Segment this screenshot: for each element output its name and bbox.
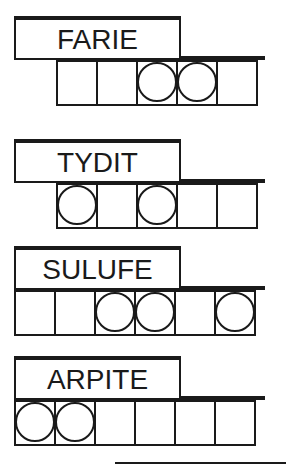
tile-input[interactable] [178,62,216,104]
tile-input[interactable] [176,402,214,444]
scrambled-word-box: ARPITE [14,356,181,400]
answer-tiles [56,183,258,229]
tile-input[interactable] [58,185,96,227]
tile-input[interactable] [136,402,174,444]
tile-input[interactable] [218,62,256,104]
scrambled-word: FARIE [57,24,138,54]
tile-input[interactable] [98,185,136,227]
scrambled-word-box: FARIE [14,16,181,60]
tile-input[interactable] [178,185,216,227]
tile-input[interactable] [58,62,96,104]
answer-tile-circled[interactable] [56,183,98,229]
answer-tiles [14,290,256,336]
answer-tiles [56,60,258,106]
tile-row-top-border [181,396,265,400]
tile-input[interactable] [56,292,94,334]
answer-tile[interactable] [96,183,138,229]
tile-row-top-border [181,56,265,60]
answer-tile[interactable] [176,183,218,229]
tile-input[interactable] [218,185,256,227]
scrambled-word-box: SULUFE [14,246,181,290]
tile-input[interactable] [138,62,176,104]
scrambled-word: TYDIT [57,147,138,177]
answer-tile-circled[interactable] [134,290,176,336]
answer-tile[interactable] [56,60,98,106]
answer-tile[interactable] [14,290,56,336]
answer-tile[interactable] [214,400,256,446]
answer-tile[interactable] [96,60,138,106]
answer-tile[interactable] [174,400,216,446]
tile-input[interactable] [96,402,134,444]
tile-input[interactable] [176,292,214,334]
answer-tile[interactable] [54,290,96,336]
answer-tile-circled[interactable] [94,290,136,336]
answer-tile-circled[interactable] [214,290,256,336]
tile-row-top-border [181,286,265,290]
tile-input[interactable] [16,292,54,334]
answer-tile-circled[interactable] [176,60,218,106]
answer-tile[interactable] [174,290,216,336]
tile-input[interactable] [136,292,174,334]
answer-tile[interactable] [216,60,258,106]
answer-tile[interactable] [134,400,176,446]
answer-tiles [14,400,256,446]
answer-tile[interactable] [216,183,258,229]
scrambled-word: SULUFE [42,254,152,284]
tile-input[interactable] [96,292,134,334]
tile-input[interactable] [216,292,254,334]
answer-tile-circled[interactable] [14,400,56,446]
tile-input[interactable] [138,185,176,227]
tile-input[interactable] [56,402,94,444]
answer-tile-circled[interactable] [136,60,178,106]
answer-tile-circled[interactable] [136,183,178,229]
tile-input[interactable] [98,62,136,104]
answer-tile[interactable] [94,400,136,446]
tile-input[interactable] [16,402,54,444]
answer-tile-circled[interactable] [54,400,96,446]
scrambled-word-box: TYDIT [14,139,181,183]
tile-input[interactable] [216,402,254,444]
scrambled-word: ARPITE [47,364,148,394]
tile-row-top-border [181,179,265,183]
